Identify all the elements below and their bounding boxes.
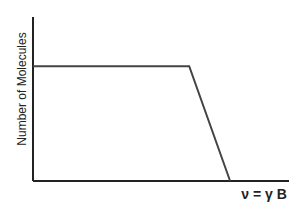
distribution-line [33,66,230,181]
x-axis-label: ν = γ B [241,186,287,202]
chart: Number of Molecules ν = γ B [0,0,306,207]
y-axis-label: Number of Molecules [15,32,29,145]
